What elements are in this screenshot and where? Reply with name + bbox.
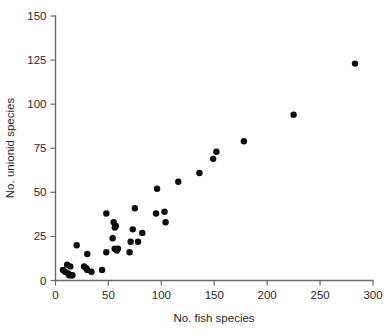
data-point — [67, 263, 73, 269]
scatter-plot-figure: 050100150200250300 0255075100125150 No. … — [0, 0, 390, 334]
data-point — [84, 251, 90, 257]
x-tick-label: 50 — [102, 289, 115, 301]
x-tick-label: 200 — [258, 289, 277, 301]
y-tick-label: 25 — [34, 230, 47, 242]
data-point — [103, 210, 109, 216]
y-axis-tick-labels: 0255075100125150 — [27, 10, 46, 287]
data-point — [99, 267, 105, 273]
data-point — [127, 239, 133, 245]
data-point — [175, 179, 181, 185]
data-points-group — [60, 60, 358, 278]
y-tick-label: 150 — [27, 10, 46, 22]
data-point — [126, 249, 132, 255]
x-tick-label: 150 — [205, 289, 224, 301]
x-axis-title: No. fish species — [173, 312, 254, 324]
y-tick-label: 125 — [27, 54, 46, 66]
x-axis-tick-labels: 050100150200250300 — [52, 289, 382, 301]
y-tick-label: 75 — [34, 142, 47, 154]
x-tick-label: 100 — [152, 289, 171, 301]
data-point — [132, 205, 138, 211]
x-axis-ticks — [56, 281, 374, 286]
data-point — [88, 268, 94, 274]
axes-group — [55, 16, 373, 281]
data-point — [161, 209, 167, 215]
y-axis-ticks — [51, 16, 56, 281]
data-point — [213, 149, 219, 155]
x-tick-label: 250 — [310, 289, 329, 301]
data-point — [103, 249, 109, 255]
x-tick-label: 0 — [52, 289, 58, 301]
data-point — [135, 239, 141, 245]
data-point — [210, 156, 216, 162]
y-tick-label: 100 — [27, 98, 46, 110]
data-point — [196, 170, 202, 176]
data-point — [290, 112, 296, 118]
data-point — [69, 272, 75, 278]
y-tick-label: 50 — [34, 186, 47, 198]
plot-svg: 050100150200250300 0255075100125150 No. … — [0, 0, 390, 334]
y-axis-title: No. unionid species — [4, 98, 16, 199]
data-point — [73, 242, 79, 248]
data-point — [115, 246, 121, 252]
data-point — [241, 138, 247, 144]
data-point — [139, 230, 145, 236]
data-point — [113, 223, 119, 229]
data-point — [154, 186, 160, 192]
data-point — [153, 210, 159, 216]
data-point — [109, 235, 115, 241]
x-tick-label: 300 — [363, 289, 382, 301]
y-tick-label: 0 — [40, 275, 46, 287]
data-point — [130, 226, 136, 232]
data-point — [162, 219, 168, 225]
data-point — [352, 60, 358, 66]
